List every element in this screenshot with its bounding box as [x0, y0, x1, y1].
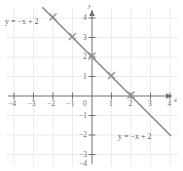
y-axis-label: y [88, 3, 91, 10]
x-tick-label--2: −2 [47, 100, 55, 108]
y-tick-label-1: 1 [83, 73, 87, 81]
x-tick-label-1: 1 [109, 100, 113, 108]
y-tick-label--1: −1 [79, 112, 87, 120]
y-tick-label--4: −4 [79, 160, 87, 168]
y-tick-label--3: −3 [79, 151, 87, 159]
equation-label-top-left: y = −x + 2 [5, 18, 39, 26]
y-axis [89, 10, 96, 164]
x-tick-label--3: −3 [28, 100, 36, 108]
y-tick-label-4: 4 [83, 14, 87, 22]
x-tick-label-4: 4 [168, 100, 172, 108]
x-tick-label-3: 3 [148, 100, 152, 108]
y-tick-label-3: 3 [83, 34, 87, 42]
y-tick-label-2: 2 [83, 53, 87, 61]
x-axis-label: x [174, 97, 177, 104]
plotted-line [42, 7, 171, 136]
graph-figure: −4 −3 −2 −1 0 1 2 3 4 4 3 2 1 −1 −2 −3 −… [0, 0, 183, 171]
y-tick-label--2: −2 [79, 131, 87, 139]
x-tick-label-2: 2 [129, 100, 133, 108]
x-tick-label--1: −1 [67, 100, 75, 108]
x-tick-label--4: −4 [8, 100, 16, 108]
origin-label: 0 [83, 100, 87, 108]
equation-label-bottom-right: y = −x + 2 [118, 133, 152, 141]
